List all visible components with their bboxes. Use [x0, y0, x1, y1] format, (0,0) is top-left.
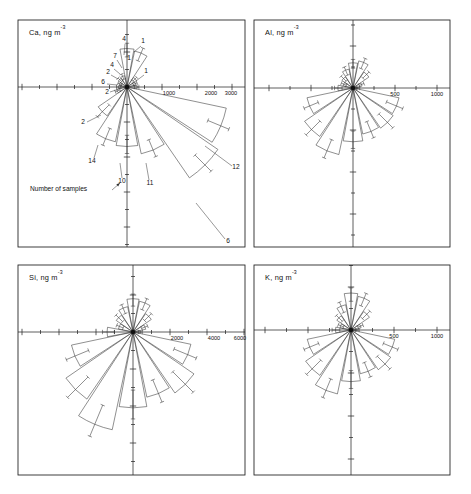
rose-whisker	[117, 325, 123, 328]
rose-whisker	[361, 293, 366, 305]
rose-whisker	[304, 102, 318, 108]
count-leader-line	[124, 44, 125, 55]
rose-origin-hub	[349, 328, 354, 333]
count-leader-line	[205, 146, 232, 166]
rose-whisker	[307, 360, 321, 374]
sample-count-label: 2	[81, 118, 85, 125]
sample-count-label: 1	[141, 37, 145, 44]
panel-frame-si	[18, 265, 245, 475]
rose-whisker	[383, 343, 397, 349]
axis-tick-label: 1000	[431, 333, 443, 339]
rose-whisker	[379, 114, 393, 128]
count-leader-line	[107, 84, 117, 85]
rose-whisker	[142, 299, 147, 310]
count-leader-line	[117, 60, 122, 68]
rose-whisker	[361, 59, 365, 69]
rose-whisker	[367, 122, 374, 138]
rose-whisker	[306, 121, 320, 135]
panel-frame-al	[254, 20, 450, 247]
sample-count-label: 1	[144, 67, 148, 74]
sample-count-label: 14	[88, 157, 96, 164]
rose-whisker	[68, 377, 88, 397]
rose-whisker	[304, 343, 318, 349]
sample-count-label: 10	[118, 177, 126, 184]
rose-whisker	[364, 362, 370, 376]
rose-whisker	[116, 315, 123, 322]
rose-petal	[79, 332, 133, 430]
count-leader-line	[87, 115, 101, 122]
axis-tick-label: 3000	[225, 90, 237, 96]
rose-whisker	[323, 379, 331, 398]
rose-petal	[133, 301, 150, 332]
figure-root: 100020003000Ca, ng m-3411742621214101112…	[0, 0, 471, 494]
rose-whisker	[138, 48, 143, 61]
rose-whisker	[344, 67, 347, 75]
rose-petal	[316, 88, 353, 155]
rose-whisker	[173, 372, 193, 392]
count-leader-line	[114, 69, 120, 74]
panel-ca: 100020003000Ca, ng m-3411742621214101112…	[18, 20, 245, 247]
sample-count-label: 2	[105, 88, 109, 95]
sample-count-label: 11	[147, 179, 154, 186]
rose-whisker	[377, 356, 390, 369]
sample-count-label: 7	[113, 52, 117, 59]
rose-petal	[353, 88, 379, 134]
rose-whisker	[122, 305, 126, 314]
rose-whisker	[324, 140, 332, 158]
panel-label-k: K, ng m-3	[265, 269, 297, 282]
rose-whisker	[153, 380, 162, 402]
rose-petal	[133, 332, 169, 397]
number-of-samples-annotation: Number of samples	[30, 183, 120, 193]
rose-origin-hub	[131, 330, 136, 335]
annotation-text: Number of samples	[30, 185, 88, 193]
sample-count-label: 4	[110, 61, 114, 68]
panel-label-si: Si, ng m-3	[29, 269, 63, 282]
panel-al: 5001000Al, ng m-3	[254, 20, 450, 247]
rose-whisker	[103, 128, 110, 145]
rose-whisker	[195, 155, 211, 171]
sample-count-label: 6	[226, 237, 230, 244]
rose-petal	[315, 330, 351, 394]
axis-tick-label: 1000	[431, 91, 443, 97]
rose-petal	[351, 296, 370, 330]
rose-petal	[307, 88, 353, 114]
sample-count-label: 6	[101, 78, 105, 85]
rose-whisker	[90, 405, 103, 436]
panel-frame-k	[254, 265, 450, 475]
axis-tick-label: 500	[390, 91, 399, 97]
panel-si: 200040006000Si, ng m-3	[18, 265, 246, 475]
rose-whisker	[174, 349, 196, 358]
rose-petal	[351, 330, 395, 354]
rose-whisker	[363, 72, 369, 78]
count-leader-line	[196, 203, 225, 239]
rose-petal	[127, 87, 164, 154]
rose-whisker	[97, 105, 109, 117]
panel-k: 5001000K, ng m-3	[254, 265, 450, 475]
panel-frame-ca	[18, 20, 245, 247]
rose-whisker	[66, 350, 88, 359]
rose-whisker	[145, 314, 152, 321]
axis-tick-label: 4000	[208, 335, 220, 341]
axis-tick-label: 2000	[171, 335, 183, 341]
rose-whisker	[339, 302, 343, 312]
sample-count-label: 12	[232, 163, 240, 170]
count-leader-line	[120, 163, 122, 178]
axis-tick-label: 500	[389, 333, 398, 339]
axis-tick-label: 1000	[163, 90, 175, 96]
axis-tick-label: 2000	[205, 90, 217, 96]
rose-petal	[351, 330, 375, 374]
axis-tick-label: 6000	[234, 335, 246, 341]
rose-origin-hub	[351, 86, 356, 91]
rose-petal	[71, 332, 133, 366]
sample-count-label: 1	[127, 54, 131, 61]
wind-rose-figure: 100020003000Ca, ng m-3411742621214101112…	[0, 0, 471, 494]
rose-whisker	[208, 120, 229, 129]
rose-whisker	[149, 140, 156, 157]
rose-petal	[307, 330, 351, 354]
count-leader-line	[146, 163, 149, 180]
panel-label-ca: Ca, ng m-3	[29, 24, 66, 37]
rose-whisker	[387, 102, 403, 109]
sample-count-label: 2	[106, 68, 110, 75]
count-leader-line	[111, 75, 118, 79]
sample-count-label: 4	[122, 35, 126, 42]
